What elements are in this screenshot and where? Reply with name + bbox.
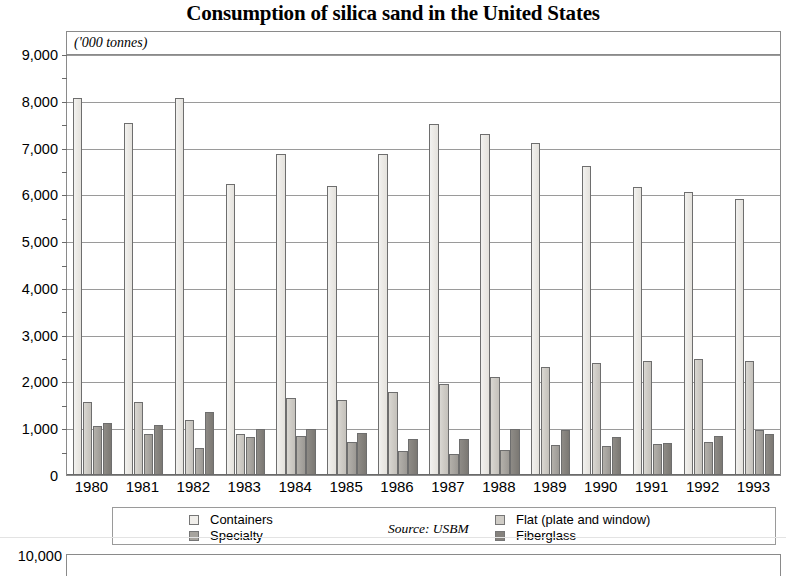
bar-containers	[684, 192, 693, 475]
x-tick-label: 1991	[626, 478, 677, 496]
bar-fiberglass	[510, 429, 519, 475]
bar-fiberglass	[459, 439, 468, 475]
bar-containers	[175, 98, 184, 475]
bar-flat	[83, 402, 92, 475]
bar-group	[322, 55, 373, 475]
legend-entry: Containers	[189, 512, 273, 527]
bar-flat	[286, 398, 295, 475]
bar-group	[424, 55, 475, 475]
y-axis: 9,0008,0007,0006,0005,0004,0003,0002,000…	[0, 26, 62, 478]
x-tick-label: 1983	[219, 478, 270, 496]
bar-specialty	[500, 450, 509, 475]
bar-fiberglass	[205, 412, 214, 475]
bar-specialty	[449, 454, 458, 475]
bar-fiberglass	[561, 430, 570, 475]
bar-group	[373, 55, 424, 475]
bar-flat	[134, 402, 143, 475]
x-tick-label: 1986	[372, 478, 423, 496]
x-axis: 1980198119821983198419851986198719881989…	[66, 478, 781, 500]
plot-canvas	[67, 55, 780, 475]
legend-label: Flat (plate and window)	[516, 513, 650, 527]
y-tick-label: 4,000	[22, 282, 58, 296]
bar-fiberglass	[765, 434, 774, 475]
bar-flat	[490, 377, 499, 475]
legend-swatch-fiberglass	[495, 531, 505, 541]
bar-flat	[439, 384, 448, 475]
bar-group	[169, 55, 220, 475]
legend-swatch-containers	[189, 515, 199, 525]
legend-entry: Fiberglass	[495, 528, 650, 543]
bar-flat	[592, 363, 601, 475]
x-axis-baseline	[67, 474, 780, 475]
bar-flat	[185, 420, 194, 475]
bar-group	[271, 55, 322, 475]
bar-specialty	[246, 437, 255, 475]
page-divider	[0, 537, 786, 538]
bar-containers	[531, 143, 540, 475]
bar-group	[678, 55, 729, 475]
bar-group	[474, 55, 525, 475]
bar-containers	[73, 98, 82, 475]
x-tick-label: 1993	[728, 478, 779, 496]
legend-swatch-flat	[495, 515, 505, 525]
x-tick-label: 1981	[117, 478, 168, 496]
bar-series-layer	[67, 55, 780, 475]
y-tick-label: 6,000	[22, 188, 58, 202]
bar-specialty	[296, 436, 305, 475]
bar-fiberglass	[103, 423, 112, 475]
bar-containers	[124, 123, 133, 475]
bar-containers	[735, 199, 744, 475]
chart-figure: 9,0008,0007,0006,0005,0004,0003,0002,000…	[0, 26, 786, 541]
bar-containers	[276, 154, 285, 475]
x-tick-label: 1984	[270, 478, 321, 496]
bar-flat	[643, 361, 652, 475]
y-tick-label: 3,000	[22, 329, 58, 343]
y-tick-label: 2,000	[22, 375, 58, 389]
bar-containers	[327, 186, 336, 475]
bar-containers	[226, 184, 235, 475]
bar-group	[627, 55, 678, 475]
y-tick-label: 1,000	[22, 422, 58, 436]
bar-specialty	[144, 434, 153, 475]
chart-legend: ContainersSpecialty Flat (plate and wind…	[112, 507, 776, 545]
legend-column-right: Flat (plate and window)Fiberglass	[495, 512, 650, 544]
x-tick-label: 1990	[575, 478, 626, 496]
bar-specialty	[398, 451, 407, 475]
bar-group	[118, 55, 169, 475]
source-note: Source: USBM	[388, 521, 469, 537]
bar-fiberglass	[663, 443, 672, 475]
bar-group	[576, 55, 627, 475]
bar-containers	[429, 124, 438, 475]
x-tick-label: 1980	[66, 478, 117, 496]
bar-flat	[388, 392, 397, 475]
bar-containers	[582, 166, 591, 475]
bar-specialty	[551, 445, 560, 475]
plot-area: ('000 tonnes)	[66, 31, 781, 476]
bar-fiberglass	[357, 433, 366, 475]
bar-fiberglass	[154, 425, 163, 475]
units-caption: ('000 tonnes)	[74, 35, 147, 51]
next-chart-y-top-label: 10,000	[4, 549, 62, 563]
bar-fiberglass	[256, 429, 265, 475]
bar-containers	[480, 134, 489, 475]
x-tick-label: 1987	[423, 478, 474, 496]
bar-group	[67, 55, 118, 475]
bar-specialty	[93, 426, 102, 475]
bar-specialty	[755, 430, 764, 475]
x-tick-label: 1989	[524, 478, 575, 496]
bar-containers	[378, 154, 387, 475]
bar-group	[525, 55, 576, 475]
y-tick-label: 8,000	[22, 95, 58, 109]
next-chart-plot-frame	[66, 554, 781, 576]
bar-flat	[694, 359, 703, 475]
bar-specialty	[195, 448, 204, 475]
bar-flat	[236, 434, 245, 475]
bar-flat	[745, 361, 754, 475]
bar-specialty	[602, 446, 611, 475]
legend-column-left: ContainersSpecialty	[189, 512, 273, 544]
legend-swatch-specialty	[189, 531, 199, 541]
bar-specialty	[653, 444, 662, 475]
y-tick-label: 9,000	[22, 48, 58, 62]
y-tick-label: 5,000	[22, 235, 58, 249]
bar-group	[220, 55, 271, 475]
